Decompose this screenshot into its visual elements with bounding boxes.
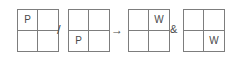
grid-3: W <box>128 9 170 52</box>
grid-4: W <box>183 9 225 52</box>
grid-relation-figure: P / P → W & W <box>0 0 232 60</box>
grid-2-cell-top-right <box>89 10 109 31</box>
grid-1: P <box>17 9 59 52</box>
grid-4-cell-bottom-left <box>184 31 204 52</box>
grid-2: P <box>68 9 110 52</box>
arrow-icon: → <box>111 24 123 36</box>
grid-3-cell-bottom-left <box>129 31 149 52</box>
grid-4-cell-top-right <box>204 10 224 31</box>
grid-2-cell-bottom-left: P <box>69 31 89 52</box>
grid-4-cell-top-left <box>184 10 204 31</box>
grid-4-cell-bottom-right: W <box>204 31 224 52</box>
grid-1-cell-bottom-left <box>18 31 38 52</box>
grid-1-cell-bottom-right <box>38 31 58 52</box>
grid-1-cell-top-left: P <box>18 10 38 31</box>
grid-1-cell-top-right <box>38 10 58 31</box>
ampersand-operator: & <box>170 24 177 35</box>
grid-2-cell-bottom-right <box>89 31 109 52</box>
grid-3-cell-top-left <box>129 10 149 31</box>
grid-3-cell-bottom-right <box>149 31 169 52</box>
grid-3-cell-top-right: W <box>149 10 169 31</box>
grid-2-cell-top-left <box>69 10 89 31</box>
slash-operator: / <box>57 23 61 36</box>
